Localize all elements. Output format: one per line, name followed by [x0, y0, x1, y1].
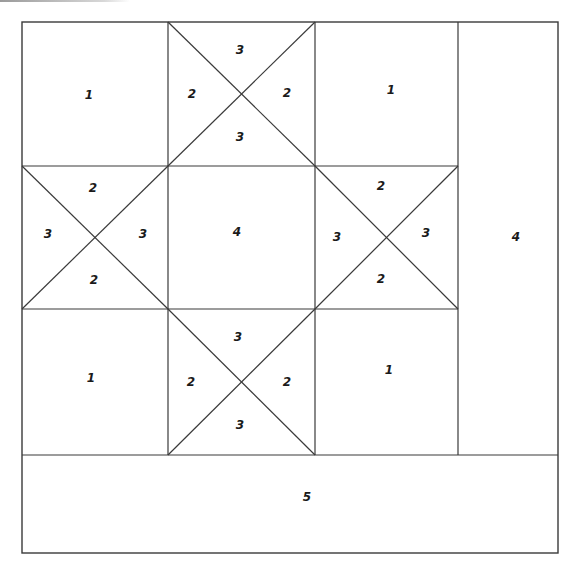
piece-label-middle-left-tri-right: 3 — [139, 228, 147, 240]
piece-label-right-column-strip: 4 — [512, 231, 520, 243]
piece-label-top-middle-tri-bottom: 3 — [236, 131, 244, 143]
piece-label-middle-left-tri-top: 2 — [89, 182, 97, 194]
piece-label-bottom-right-square: 1 — [385, 364, 393, 376]
piece-label-bottom-strip: 5 — [303, 491, 311, 503]
piece-label-bottom-middle-tri-left: 2 — [187, 376, 195, 388]
outer-border — [22, 22, 558, 553]
piece-label-middle-left-tri-bottom: 2 — [90, 274, 98, 286]
piece-label-middle-right-tri-left: 3 — [333, 231, 341, 243]
piece-label-middle-right-tri-bottom: 2 — [377, 273, 385, 285]
piece-label-middle-right-tri-right: 3 — [422, 227, 430, 239]
piece-label-top-middle-tri-right: 2 — [283, 87, 291, 99]
piece-label-middle-right-tri-top: 2 — [377, 180, 385, 192]
piece-label-top-right-square: 1 — [387, 84, 395, 96]
piece-label-top-middle-tri-top: 3 — [236, 44, 244, 56]
piece-label-top-left-square: 1 — [85, 89, 93, 101]
piece-label-bottom-middle-tri-bottom: 3 — [236, 419, 244, 431]
piece-label-bottom-middle-tri-top: 3 — [234, 331, 242, 343]
piece-label-bottom-middle-tri-right: 2 — [283, 376, 291, 388]
piece-label-center-square: 4 — [233, 226, 241, 238]
piece-label-middle-left-tri-left: 3 — [44, 228, 52, 240]
piece-label-top-middle-tri-left: 2 — [188, 88, 196, 100]
piece-label-bottom-left-square: 1 — [87, 372, 95, 384]
